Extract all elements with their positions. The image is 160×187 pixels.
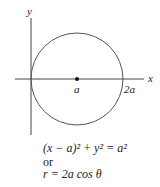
point-label-a: a bbox=[74, 84, 80, 95]
circle-diagram bbox=[0, 0, 160, 187]
center-point bbox=[75, 77, 79, 81]
cartesian-equation: (x − a)² + y² = a² bbox=[43, 142, 127, 154]
polar-equation: r = 2a cos θ bbox=[43, 168, 102, 180]
x-axis-label: x bbox=[148, 73, 153, 84]
point-label-2a: 2a bbox=[124, 84, 135, 95]
y-axis-label: y bbox=[27, 6, 32, 17]
